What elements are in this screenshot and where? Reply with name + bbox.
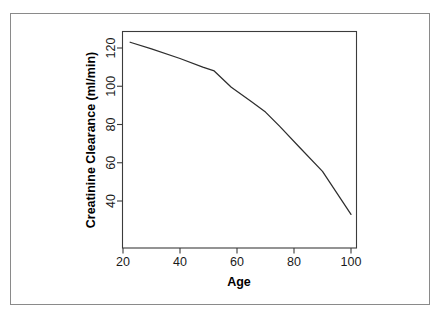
- x-tick-label: 100: [341, 255, 362, 269]
- y-axis-title: Creatinine Clearance (ml/min): [84, 52, 98, 228]
- x-axis-tick-labels: 20406080100: [116, 255, 361, 269]
- x-tick-label: 20: [116, 255, 130, 269]
- figure-canvas: 406080100120 20406080100 Age Creatinine …: [0, 0, 443, 318]
- y-tick-label: 60: [104, 156, 118, 170]
- y-tick-label: 100: [104, 76, 118, 97]
- data-series-line: [130, 42, 351, 214]
- x-axis-ticks: [123, 248, 351, 254]
- y-tick-label: 40: [104, 194, 118, 208]
- x-tick-label: 80: [287, 255, 301, 269]
- y-tick-label: 80: [104, 118, 118, 132]
- y-tick-label: 120: [104, 38, 118, 59]
- x-tick-label: 60: [230, 255, 244, 269]
- x-axis-title: Age: [227, 275, 251, 289]
- line-chart: 406080100120 20406080100 Age Creatinine …: [0, 0, 443, 318]
- y-axis-tick-labels: 406080100120: [104, 38, 118, 208]
- x-tick-label: 40: [173, 255, 187, 269]
- plot-area-border: [123, 32, 357, 249]
